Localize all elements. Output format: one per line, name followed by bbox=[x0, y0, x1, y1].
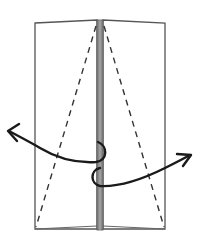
origami-diagram bbox=[0, 0, 200, 246]
